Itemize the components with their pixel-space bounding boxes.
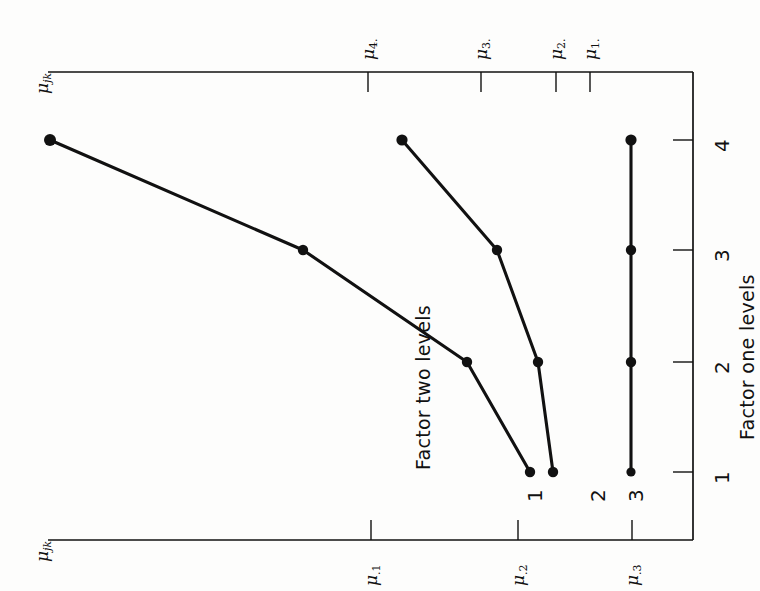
bottom-axis-title: μjk [34, 541, 53, 562]
series-line-1 [44, 134, 535, 477]
data-point [626, 467, 635, 476]
mu-subscript: .2 [517, 564, 530, 575]
factor-one-tick-label-2: 2 [712, 361, 732, 374]
mu-symbol: μ [546, 49, 566, 60]
top-axis-title: μjk [34, 73, 53, 94]
mu-symbol: μ [32, 83, 52, 94]
top-tick-label-mu4: μ4. [360, 38, 379, 60]
factor-one-tick-label-1: 1 [712, 471, 732, 484]
data-point [533, 357, 543, 367]
data-point [462, 357, 472, 367]
factor-one-ticks [673, 140, 693, 472]
bottom-axis-ticks [371, 520, 632, 540]
factor-two-legend-title: Factor two levels [414, 305, 433, 470]
factor-one-tick-label-4: 4 [712, 139, 732, 152]
series-label-3: 3 [626, 489, 646, 502]
data-point [298, 245, 308, 255]
plot-canvas [0, 0, 760, 591]
data-point [44, 134, 56, 146]
series-label-2: 2 [588, 489, 608, 502]
mu-subscript: 3. [480, 38, 493, 49]
mu-subscript: jk [41, 73, 54, 83]
interaction-plot-figure: μjk μ4. μ3. μ2. μ1. μjk μ.1 μ.2 μ.3 4 3 … [0, 0, 760, 591]
data-point [548, 467, 558, 477]
mu-subscript: jk [41, 541, 54, 551]
data-point [525, 467, 535, 477]
top-tick-label-mu3: μ3. [473, 38, 492, 60]
series-label-1: 1 [525, 489, 545, 502]
mu-subscript: 1. [589, 38, 602, 49]
data-point [626, 245, 636, 255]
mu-subscript: 2. [555, 38, 568, 49]
mu-symbol: μ [580, 49, 600, 60]
data-point [396, 134, 407, 145]
mu-symbol: μ [508, 575, 528, 586]
factor-one-tick-label-3: 3 [712, 249, 732, 262]
mu-subscript: .1 [370, 564, 383, 575]
bottom-tick-label-mu-dot-1: μ.1 [363, 564, 382, 586]
bottom-tick-label-mu-dot-3: μ.3 [624, 564, 643, 586]
mu-symbol: μ [361, 575, 381, 586]
top-tick-label-mu1: μ1. [582, 38, 601, 60]
top-tick-label-mu2: μ2. [548, 38, 567, 60]
data-point [626, 357, 636, 367]
series-line-3 [625, 134, 636, 476]
mu-symbol: μ [32, 551, 52, 562]
bottom-tick-label-mu-dot-2: μ.2 [510, 564, 529, 586]
data-point [492, 245, 502, 255]
mu-subscript: 4. [367, 38, 380, 49]
factor-one-axis-title: Factor one levels [738, 274, 757, 440]
mu-symbol: μ [471, 49, 491, 60]
mu-symbol: μ [622, 575, 642, 586]
data-point [625, 134, 636, 145]
top-axis-ticks [368, 72, 590, 92]
mu-symbol: μ [358, 49, 378, 60]
mu-subscript: .3 [631, 564, 644, 575]
